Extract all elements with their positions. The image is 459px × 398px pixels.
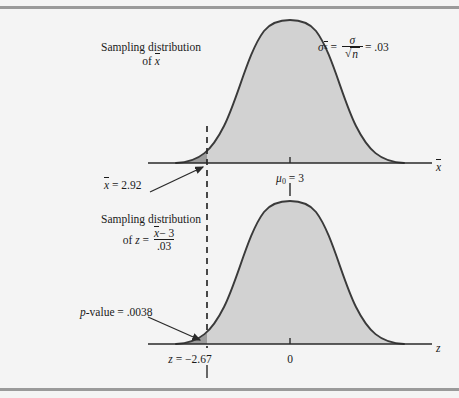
top-observed-value-label: x = 2.92	[104, 178, 170, 192]
sigma-fraction-denominator: √n	[342, 46, 363, 60]
z-fraction-numerator: x− 3	[151, 227, 177, 239]
xbar-symbol: x	[104, 178, 109, 192]
bottom-caption-equals: =	[143, 233, 150, 247]
bottom-panel-caption: Sampling distribution of z = x− 3 .03	[88, 212, 214, 252]
xbar-equals-value: = 2.92	[112, 179, 142, 191]
z-definition-fraction: x− 3 .03	[151, 227, 177, 252]
mu-subscript: 0	[282, 177, 286, 186]
z-equals-value: = −2.67	[176, 353, 212, 365]
top-panel-caption: Sampling distribution of x	[88, 40, 214, 68]
z-numerator-variable: x	[154, 227, 159, 239]
pvalue-label: p-value = .0038	[80, 305, 184, 319]
bottom-axis-name-symbol: z	[436, 342, 440, 354]
sigma-equals-sign: =	[328, 40, 340, 54]
sigma-subscript: x	[324, 42, 328, 52]
bottom-center-label: 0	[275, 352, 305, 366]
sigma-radicand: n	[350, 47, 360, 60]
top-caption-variable: x	[155, 54, 160, 68]
top-caption-line1: Sampling distribution	[101, 41, 201, 53]
z-fraction-denominator: .03	[154, 239, 174, 252]
bottom-caption-line2-prefix: of	[123, 233, 133, 247]
mu-equals-value: = 3	[289, 172, 304, 184]
top-axis-name-symbol: x	[436, 160, 441, 174]
statistics-figure: Sampling distribution of x σx = σ √n = .…	[0, 0, 459, 398]
bottom-annotation-arrow	[148, 317, 200, 340]
bottom-axis-name: z	[436, 341, 454, 355]
top-caption-line2-prefix: of	[142, 55, 152, 67]
sigma-xbar-formula: σx = σ √n = .03	[318, 34, 438, 60]
bottom-caption-line1: Sampling distribution	[101, 213, 201, 225]
z-symbol: z	[168, 353, 172, 365]
top-axis-name: x	[436, 160, 454, 174]
bottom-caption-variable: z	[135, 233, 139, 247]
sigma-fraction: σ √n	[342, 34, 363, 60]
bottom-observed-value-label: z = −2.67	[155, 352, 225, 366]
z-numerator-rest: − 3	[159, 227, 174, 239]
sigma-result: = .03	[365, 40, 389, 54]
top-center-label: μ0 = 3	[260, 171, 320, 187]
pvalue-rest: -value = .0038	[86, 306, 153, 318]
sigma-fraction-numerator: σ	[347, 34, 359, 46]
